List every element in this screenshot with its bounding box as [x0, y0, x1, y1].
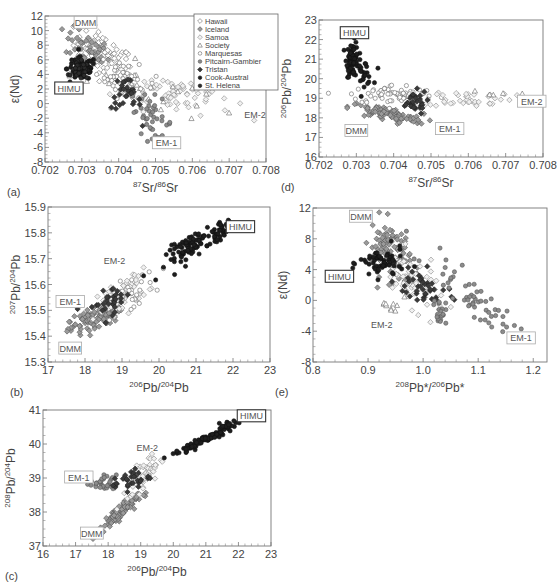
data-point-marker: [179, 260, 183, 264]
data-point-marker: [145, 116, 149, 120]
data-point-marker: [353, 97, 357, 101]
data-point-marker: [197, 232, 201, 236]
data-point-marker: [352, 57, 356, 61]
data-point-marker: [412, 264, 416, 268]
data-point-marker: [152, 476, 157, 481]
data-point-marker: [376, 66, 380, 70]
data-points: [84, 419, 241, 542]
data-point-marker: [377, 210, 382, 215]
data-point-marker: [363, 73, 367, 77]
data-point-marker: [447, 286, 451, 290]
data-points: [326, 36, 525, 127]
data-point-marker: [135, 293, 139, 297]
data-point-marker: [59, 26, 64, 31]
data-point-marker: [364, 240, 369, 245]
x-tick-label: 0.706: [455, 159, 483, 171]
end-member-label-em-1: EM-1: [439, 124, 461, 134]
x-tick-label: 1.2: [526, 364, 541, 376]
data-point-marker: [111, 42, 116, 47]
data-point-marker: [186, 248, 190, 252]
y-tick-label: 41: [29, 404, 41, 416]
data-point-marker: [441, 283, 445, 287]
data-point-marker: [205, 225, 209, 229]
data-point-marker: [444, 321, 448, 325]
data-point-marker: [441, 272, 445, 276]
data-point-marker: [123, 56, 128, 61]
end-member-label-em-2: EM-2: [104, 256, 126, 266]
data-point-marker: [85, 307, 90, 312]
y-tick-label: 15.8: [25, 227, 46, 239]
data-point-marker: [369, 94, 373, 98]
x-tick-label: 0.708: [529, 159, 557, 171]
data-point-marker: [358, 58, 362, 62]
data-point-marker: [359, 94, 363, 98]
x-tick-label: 18: [102, 548, 114, 560]
data-point-marker: [111, 84, 115, 88]
data-point-marker: [444, 258, 448, 262]
data-point-marker: [365, 65, 369, 69]
data-point-marker: [349, 44, 353, 48]
y-tick-label: 15.4: [25, 330, 46, 342]
data-point-marker: [89, 483, 93, 487]
end-member-label-em-2: EM-2: [244, 110, 266, 120]
x-tick-label: 17: [69, 548, 81, 560]
data-point-marker: [133, 56, 138, 61]
y-tick-label: 0: [37, 98, 43, 110]
chart-panel-e: 0.80.91.01.11.212840-4-8208Pb*/206Pb*ε(N…: [275, 202, 547, 398]
data-point-marker: [352, 61, 356, 65]
data-point-marker: [153, 92, 157, 96]
x-tick-label: 20: [167, 548, 179, 560]
data-point-marker: [199, 441, 203, 445]
data-point-marker: [138, 288, 142, 292]
y-tick-label: 39: [29, 472, 41, 484]
x-tick-label: 21: [200, 548, 212, 560]
data-point-marker: [367, 262, 371, 266]
y-axis-label: 208Pb/204Pb: [3, 448, 18, 508]
data-point-marker: [162, 456, 166, 460]
data-point-marker: [228, 429, 232, 433]
data-point-marker: [351, 70, 355, 74]
data-point-marker: [451, 296, 455, 300]
x-tick-label: 19: [116, 364, 128, 376]
x-tick-label: 23: [264, 364, 276, 376]
data-point-marker: [129, 307, 133, 311]
data-point-marker: [346, 69, 350, 73]
x-tick-label: 0.704: [105, 164, 133, 176]
panel-label-e: (e): [275, 386, 288, 398]
data-point-marker: [197, 238, 201, 242]
y-tick-label: -4: [33, 127, 43, 139]
end-member-label-dmm: DMM: [59, 344, 81, 354]
x-tick-label: 0.704: [380, 159, 408, 171]
data-point-marker: [118, 279, 122, 283]
end-member-label-himu: HIMU: [240, 411, 263, 421]
data-point-marker: [417, 259, 421, 263]
data-point-marker: [466, 298, 470, 302]
data-point-marker: [148, 126, 152, 130]
y-tick-label: 12: [299, 202, 311, 214]
data-point-marker: [216, 232, 220, 236]
data-point-marker: [379, 92, 383, 96]
data-point-marker: [77, 71, 81, 75]
y-tick-label: -8: [301, 356, 311, 368]
data-point-marker: [478, 318, 482, 322]
y-tick-label: 15.9: [25, 201, 46, 213]
legend-label: St. Helena: [205, 81, 241, 90]
legend-marker-icon: [198, 76, 202, 80]
y-tick-label: 17: [305, 131, 317, 143]
data-point-marker: [398, 254, 402, 258]
end-member-label-dmm: DMM: [350, 212, 372, 222]
series-tristan: [402, 86, 430, 116]
data-point-marker: [437, 300, 441, 304]
data-point-marker: [139, 132, 143, 136]
data-point-marker: [104, 65, 109, 70]
x-tick-label: 0.9: [360, 364, 375, 376]
panel-label-c: (c): [5, 570, 18, 582]
data-point-marker: [222, 96, 227, 101]
panel-label-a: (a): [7, 186, 20, 198]
data-point-marker: [150, 81, 154, 85]
data-point-marker: [160, 119, 164, 123]
y-axis-label: 206Pb/204Pb: [279, 58, 294, 118]
data-point-marker: [183, 264, 187, 268]
data-point-marker: [192, 243, 196, 247]
x-axis-label: 87Sr/86Sr: [408, 175, 453, 190]
